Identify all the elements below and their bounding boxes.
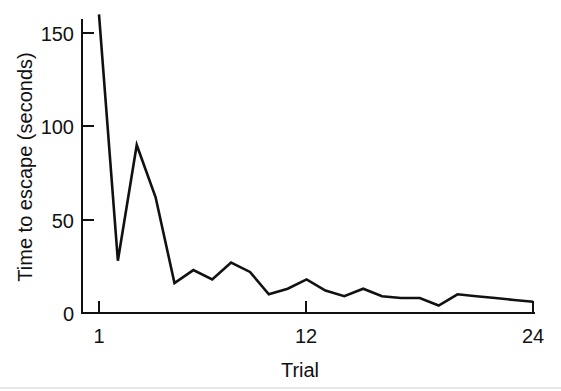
x-axis-title: Trial [281,359,319,381]
y-tick-label-0: 0 [63,303,74,325]
line-chart: 150 100 50 0 1 12 24 Time to escape (sec… [0,0,561,391]
figure-container: 150 100 50 0 1 12 24 Time to escape (sec… [0,0,561,391]
data-series-line [99,14,533,305]
x-tick-label-1: 1 [93,325,104,347]
page-rule [0,385,561,391]
y-tick-label-100: 100 [41,116,74,138]
y-tick-label-150: 150 [41,23,74,45]
y-axis-title: Time to escape (seconds) [14,52,36,281]
x-tick-label-12: 12 [295,325,317,347]
y-tick-label-50: 50 [52,210,74,232]
x-tick-group [99,301,533,313]
y-tick-group [82,33,94,313]
x-tick-label-24: 24 [522,325,544,347]
